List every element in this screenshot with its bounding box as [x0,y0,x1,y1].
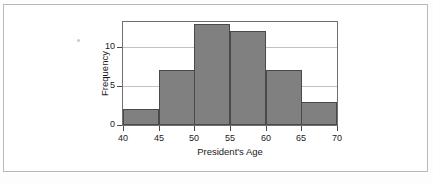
ytick-mark-10 [117,47,122,48]
ytick-mark-0 [117,125,122,126]
xtick-mark-40 [123,126,124,131]
ytick-label-0: 0 [93,120,115,129]
xtick-mark-45 [159,126,160,131]
xtick-label-60: 60 [251,133,281,143]
bar-50-55 [194,24,230,125]
xtick-mark-50 [194,126,195,131]
xtick-label-40: 40 [108,133,138,143]
xtick-mark-70 [337,126,338,131]
bar-65-70 [301,102,337,125]
x-axis-title: President's Age [122,146,338,157]
xtick-mark-65 [301,126,302,131]
y-axis-title-wrap: Frequency [98,38,110,108]
bar-45-50 [159,70,195,125]
xtick-label-65: 65 [286,133,316,143]
ytick-mark-5 [117,86,122,87]
xtick-label-45: 45 [144,133,174,143]
y-axis-title: Frequency [99,39,110,109]
xtick-label-70: 70 [322,133,352,143]
bar-55-60 [230,31,266,125]
xtick-label-50: 50 [179,133,209,143]
histogram-chart: 0 5 10 40 45 50 55 60 65 70 President's … [0,0,433,183]
xtick-label-55: 55 [215,133,245,143]
xtick-mark-55 [230,126,231,131]
bar-40-45 [123,109,159,125]
xtick-mark-60 [266,126,267,131]
scanned-page: 0 5 10 40 45 50 55 60 65 70 President's … [0,0,433,183]
bar-60-65 [266,70,302,125]
